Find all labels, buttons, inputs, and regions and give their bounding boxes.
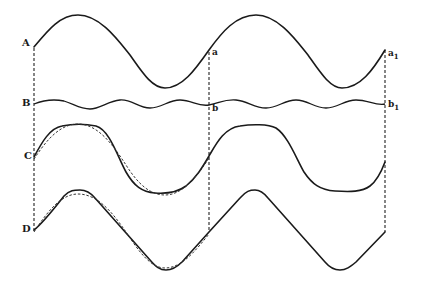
diagram-canvas [0,0,421,293]
wave-c-fundamental [34,124,209,195]
label-a1: a1 [388,48,399,62]
label-a: A [22,38,30,48]
wave-d-fundamental [34,194,209,268]
label-b: B [22,98,30,108]
label-c: C [24,151,32,161]
label-b-period: b [212,103,218,113]
label-a-period: a [212,47,218,57]
label-b1: b1 [388,99,399,113]
label-d: D [22,224,31,234]
wave-composition-diagram: A B C D a b a1 b1 [0,0,421,293]
